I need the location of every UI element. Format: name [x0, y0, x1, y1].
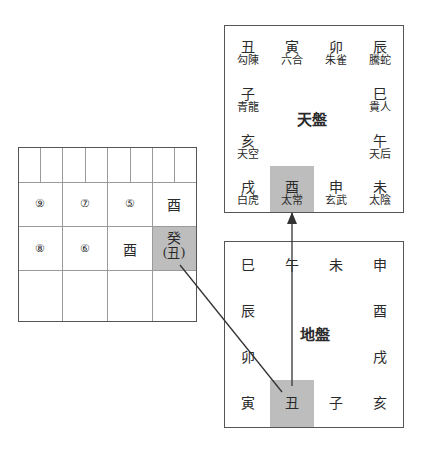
connector-lines [0, 0, 422, 450]
arrow-head-icon [287, 212, 297, 224]
diagonal-connector [180, 265, 282, 392]
